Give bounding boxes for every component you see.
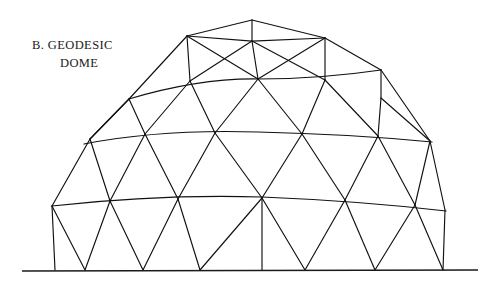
geodesic-dome-drawing: B. GEODESIC DOME: [0, 0, 503, 282]
figure-canvas: B. GEODESIC DOME: [0, 0, 503, 282]
figure-caption-line-2: DOME: [60, 56, 98, 70]
ground-line: [22, 270, 478, 271]
figure-caption-line-1: B. GEODESIC: [32, 38, 113, 52]
